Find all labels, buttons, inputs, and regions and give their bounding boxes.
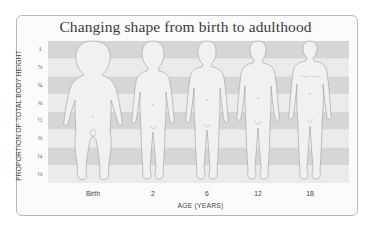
y-tick-7-8: ⅞ (34, 63, 46, 70)
y-tick-5-8: ⅝ (34, 99, 46, 106)
y-tick-3-8: ⅜ (34, 134, 46, 141)
figure-age-6 (186, 41, 228, 179)
figure-birth (64, 41, 122, 180)
x-tick-12: 12 (238, 190, 278, 197)
x-axis-label: AGE (YEARS) (0, 202, 371, 209)
figure-age-12 (237, 41, 279, 179)
y-tick-1-4: ¼ (34, 152, 46, 159)
y-axis-label: PROPORTION OF TOTAL BODY HEIGHT (15, 45, 22, 187)
y-tick-1-2: ½ (34, 116, 46, 123)
x-tick-18: 18 (290, 190, 330, 197)
figures-svg (0, 0, 371, 233)
figure-age-2 (132, 41, 174, 179)
y-tick-3-4: ¾ (34, 81, 46, 88)
y-tick-1-8: ⅛ (34, 170, 46, 177)
x-tick-6: 6 (187, 190, 227, 197)
x-tick-2: 2 (133, 190, 173, 197)
x-tick-birth: Birth (73, 190, 113, 197)
y-tick-1: 1 (34, 45, 46, 52)
figure-age-18 (289, 41, 331, 179)
